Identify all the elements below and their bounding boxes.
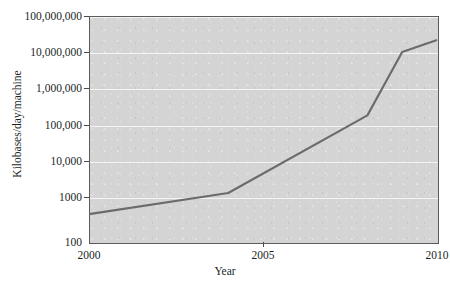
y-tick-label: 100,000,000 [0, 11, 82, 22]
y-tick-label: 100 [0, 237, 82, 248]
gridline [90, 198, 438, 199]
x-tick-label: 2005 [228, 249, 298, 261]
gridline [90, 162, 438, 163]
x-axis-label: Year [0, 265, 450, 277]
gridline [90, 53, 438, 54]
chart-figure: 100,000,000 10,000,000 1,000,000 100,000… [0, 0, 450, 284]
y-tick-mark [84, 161, 89, 162]
gridline [90, 17, 438, 18]
y-tick-mark [84, 88, 89, 89]
y-tick-mark [84, 16, 89, 17]
y-tick-mark [84, 125, 89, 126]
x-tick-mark [263, 242, 264, 247]
x-tick-label: 2000 [54, 249, 124, 261]
gridline [90, 126, 438, 127]
plot-texture [90, 17, 438, 243]
gridline [90, 89, 438, 90]
y-tick-mark [84, 52, 89, 53]
x-tick-label: 2010 [402, 249, 450, 261]
plot-area [89, 16, 439, 244]
y-tick-mark [84, 197, 89, 198]
y-axis-label: Kilobases/day/machine [11, 44, 23, 204]
